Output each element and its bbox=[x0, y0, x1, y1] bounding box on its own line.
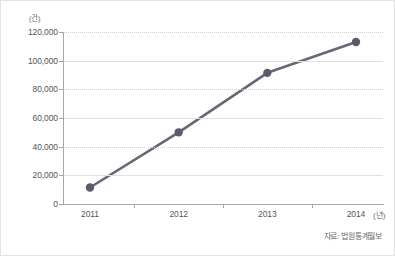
x-axis-unit-label: (년) bbox=[373, 209, 385, 220]
x-axis-tick-mark bbox=[134, 204, 135, 208]
data-point-marker: 2011: 11,500 bbox=[86, 183, 94, 191]
y-axis-tick-label: 100,000 bbox=[28, 56, 58, 66]
x-axis-tick-label: 2014 bbox=[347, 209, 366, 219]
gridline bbox=[63, 89, 383, 90]
x-axis-tick-label: 2012 bbox=[169, 209, 188, 219]
y-axis-tick-label: 0 bbox=[53, 199, 58, 209]
x-axis-tick-mark bbox=[312, 204, 313, 208]
y-axis-tick-label: 120,000 bbox=[28, 27, 58, 37]
gridline bbox=[63, 175, 383, 176]
gridline bbox=[63, 61, 383, 62]
y-axis-unit-label: (건) bbox=[29, 12, 40, 23]
line-chart-figure: (건) 020,00040,00060,00080,000100,000120,… bbox=[0, 0, 395, 256]
x-axis-tick-labels: 2011201220132014 bbox=[63, 209, 384, 223]
gridline bbox=[63, 118, 383, 119]
data-point-marker: 2014: 113,000 bbox=[352, 38, 360, 46]
y-axis-tick-label: 20,000 bbox=[33, 170, 58, 180]
y-axis-line bbox=[63, 32, 64, 204]
x-axis-tick-mark bbox=[223, 204, 224, 208]
series-line bbox=[90, 42, 356, 187]
x-axis-tick-label: 2013 bbox=[258, 209, 277, 219]
y-axis-tick-label: 80,000 bbox=[33, 84, 58, 94]
plot-area: 2011: 11,5002012: 50,0002013: 91,5002014… bbox=[63, 32, 383, 204]
data-point-marker: 2013: 91,500 bbox=[263, 69, 271, 77]
y-axis-tick-label: 40,000 bbox=[33, 142, 58, 152]
data-point-marker: 2012: 50,000 bbox=[174, 128, 182, 136]
source-note: 자료: 법원통계월보 bbox=[324, 230, 382, 241]
gridline bbox=[63, 32, 383, 33]
gridline bbox=[63, 147, 383, 148]
y-axis-tick-labels: 020,00040,00060,00080,000100,000120,000 bbox=[1, 32, 58, 204]
x-axis-tick-label: 2011 bbox=[81, 209, 99, 219]
y-axis-tick-label: 60,000 bbox=[33, 113, 58, 123]
